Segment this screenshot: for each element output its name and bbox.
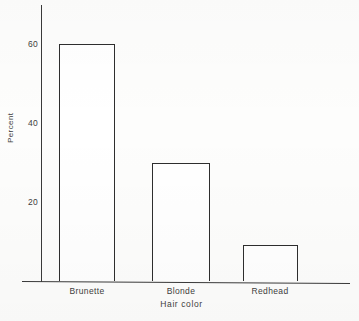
bar-brunette: [59, 44, 115, 281]
bar-blonde: [152, 163, 210, 282]
bar-chart-figure: 20 40 60 Percent Brunette Blonde Redhead…: [0, 0, 359, 321]
x-tick-label-blonde: Blonde: [149, 286, 213, 296]
x-axis-title-text: Hair color: [156, 299, 202, 309]
x-tick-label-brunette: Brunette: [55, 286, 119, 296]
plot-area: [0, 0, 359, 321]
bar-redhead: [243, 245, 298, 281]
x-tick-label-redhead: Redhead: [238, 286, 302, 296]
x-axis-title: Hair color: [0, 299, 359, 309]
